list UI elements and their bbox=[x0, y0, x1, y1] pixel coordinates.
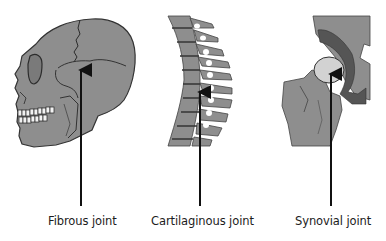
label-cartilaginous-joint: Cartilaginous joint bbox=[151, 214, 254, 228]
label-fibrous-joint: Fibrous joint bbox=[48, 214, 117, 228]
joint-types-diagram bbox=[0, 0, 386, 241]
hip-illustration bbox=[282, 16, 370, 146]
femoral-head bbox=[314, 57, 344, 83]
label-synovial-joint: Synovial joint bbox=[295, 214, 371, 228]
skull-illustration bbox=[15, 19, 135, 147]
